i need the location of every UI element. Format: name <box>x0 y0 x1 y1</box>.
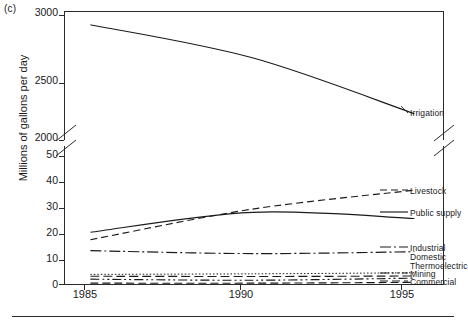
series-line-mining <box>90 278 414 280</box>
series-line-irrigation <box>90 25 414 114</box>
series-line-commercial <box>90 282 414 283</box>
series-label-irrigation: Irrigation <box>410 108 444 118</box>
series-label-public-supply: Public supply <box>410 208 461 218</box>
footer-divider <box>12 316 454 317</box>
series-line-public-supply <box>90 212 414 232</box>
series-line-thermoelectric <box>90 276 414 277</box>
series-label-livestock: Livestock <box>410 186 446 196</box>
series-line-industrial <box>90 251 414 254</box>
series-layer <box>90 25 414 284</box>
series-label-commercial: Commercial <box>410 277 456 287</box>
y-ticks-upper <box>59 16 64 141</box>
x-ticks <box>85 285 402 290</box>
y-ticks-lower <box>59 157 64 285</box>
series-line-domestic <box>90 273 414 275</box>
